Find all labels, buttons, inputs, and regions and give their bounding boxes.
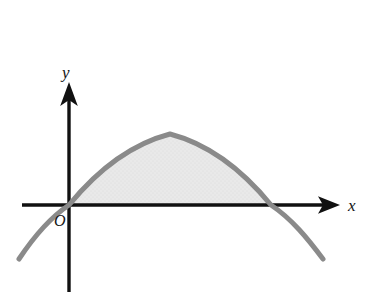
y-axis-label: y — [60, 63, 70, 82]
coordinate-plane-figure: y x O — [0, 0, 381, 292]
origin-label: O — [54, 212, 66, 229]
figure-container: y x O — [0, 0, 381, 292]
x-axis-label: x — [347, 196, 356, 215]
